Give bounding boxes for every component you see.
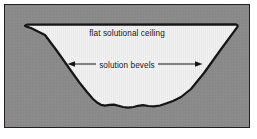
bevels-label: solution bevels	[5, 61, 249, 71]
ceiling-label: flat solutional ceiling	[5, 29, 249, 39]
diagram-frame: flat solutional ceiling solution bevels	[4, 4, 250, 128]
figure-root: flat solutional ceiling solution bevels	[0, 0, 257, 139]
bevels-label-text: solution bevels	[96, 61, 158, 70]
ceiling-label-text: flat solutional ceiling	[89, 29, 165, 38]
